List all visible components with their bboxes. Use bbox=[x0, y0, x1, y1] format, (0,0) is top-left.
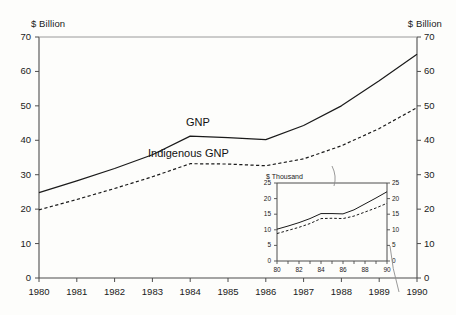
series-line-gnp bbox=[39, 54, 417, 192]
plot-canvas bbox=[0, 0, 456, 315]
inset-callout-leader-bottom bbox=[390, 246, 399, 292]
inset-background bbox=[277, 183, 387, 261]
gnp-chart-figure: $ Billion $ Billion GNP Indigenous GNP $… bbox=[0, 0, 456, 315]
